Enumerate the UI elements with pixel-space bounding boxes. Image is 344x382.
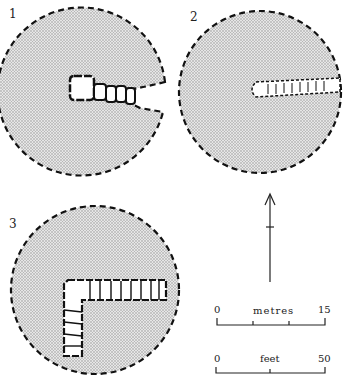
- site-plans-figure: [0, 0, 344, 382]
- panel-label-2: 2: [190, 10, 198, 24]
- plan-2: [179, 11, 341, 173]
- panel-label-1: 1: [9, 7, 17, 21]
- plan-3: [11, 206, 179, 374]
- scale-bar-metres: [217, 318, 325, 325]
- scale-metres-start: 0: [214, 304, 220, 315]
- scale-metres-end: 15: [318, 304, 331, 315]
- panel-label-3: 3: [9, 217, 17, 231]
- scale-metres-unit: metres: [253, 305, 294, 316]
- north-arrow-icon: [265, 194, 275, 282]
- plan-1: [0, 8, 165, 176]
- scale-feet-unit: feet: [260, 353, 280, 364]
- scale-feet-start: 0: [214, 353, 220, 364]
- scale-bar-feet: [216, 367, 325, 373]
- scale-feet-end: 50: [318, 353, 331, 364]
